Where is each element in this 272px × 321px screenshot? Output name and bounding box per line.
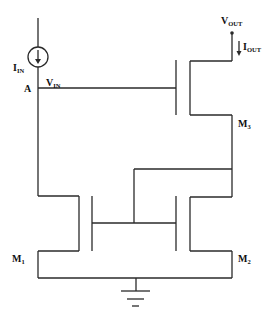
output-terminal <box>230 31 241 61</box>
label-m1: M1 <box>12 253 25 265</box>
transistor-m2 <box>176 196 232 251</box>
circuit-diagram: IIN A VIN VOUT IOUT M3 M1 M2 <box>0 0 272 321</box>
transistor-m3 <box>176 60 232 115</box>
input-branch <box>28 18 48 196</box>
transistor-m1 <box>38 196 92 251</box>
current-source-icon <box>28 47 48 67</box>
label-iout: IOUT <box>243 41 262 53</box>
label-vout: VOUT <box>221 15 243 27</box>
label-iin: IIN <box>13 62 24 74</box>
iout-arrow-icon <box>237 41 242 56</box>
label-node-a: A <box>24 83 32 94</box>
label-vin: VIN <box>46 77 61 89</box>
label-m3: M3 <box>238 118 251 130</box>
ground-icon <box>121 278 150 306</box>
vout-node-dot <box>230 31 234 35</box>
label-m2: M2 <box>238 253 251 265</box>
